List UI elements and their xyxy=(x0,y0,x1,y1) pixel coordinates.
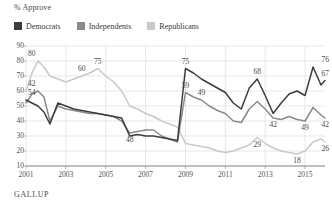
data-point-label: 42 xyxy=(322,120,330,129)
gallup-approval-chart: % Approve DemocratsIndependentsRepublica… xyxy=(0,0,332,209)
data-point-label: 49 xyxy=(198,88,206,97)
data-point-label: 42 xyxy=(28,79,36,88)
data-point-label: 80 xyxy=(28,49,36,58)
series-line-democrats xyxy=(26,67,325,141)
data-point-label: 42 xyxy=(269,120,277,129)
series-line-independents xyxy=(26,91,325,142)
data-point-label: 54 xyxy=(28,88,36,97)
data-point-label: 18 xyxy=(293,156,301,165)
source-label: GALLUP xyxy=(14,190,49,199)
data-point-label: 29 xyxy=(253,140,261,149)
data-point-label: 49 xyxy=(301,123,309,132)
data-point-label: 59 xyxy=(182,81,190,90)
data-point-label: 60 xyxy=(78,64,86,73)
data-point-label: 68 xyxy=(253,67,261,76)
data-point-label: 75 xyxy=(182,57,190,66)
data-point-label: 67 xyxy=(322,69,330,78)
chart-plot-area: 547568766748594942494280427560291826 xyxy=(0,0,332,209)
data-point-label: 76 xyxy=(322,55,330,64)
data-point-label: 48 xyxy=(126,135,134,144)
data-point-label: 75 xyxy=(94,57,102,66)
data-point-label: 26 xyxy=(322,144,330,153)
